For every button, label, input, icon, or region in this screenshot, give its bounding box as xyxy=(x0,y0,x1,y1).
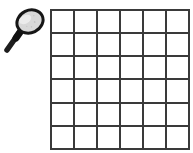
grid-cell xyxy=(144,34,165,55)
grid-cell xyxy=(75,104,96,125)
magnifier-ferrule xyxy=(16,32,21,39)
grid-cell xyxy=(52,11,73,32)
grid-cell xyxy=(52,57,73,78)
grid-cell xyxy=(167,57,188,78)
grid-cell xyxy=(98,34,119,55)
grid-cell xyxy=(52,34,73,55)
grid-cell xyxy=(121,127,142,148)
grid-cell xyxy=(75,57,96,78)
grid-cell xyxy=(121,80,142,101)
grid-cell xyxy=(121,11,142,32)
grid-cell xyxy=(167,80,188,101)
square-grid xyxy=(50,9,190,150)
grid-cell xyxy=(52,104,73,125)
grid-cell xyxy=(98,80,119,101)
grid-cell xyxy=(144,80,165,101)
grid-cell xyxy=(121,34,142,55)
grid-cell xyxy=(167,127,188,148)
grid-cell xyxy=(144,57,165,78)
grid-cell xyxy=(167,104,188,125)
magnifying-glass-icon xyxy=(1,2,51,54)
grid-cell xyxy=(52,127,73,148)
grid-cell xyxy=(98,11,119,32)
worksheet-graphic xyxy=(0,0,193,153)
grid-cell xyxy=(144,127,165,148)
grid-cell xyxy=(75,80,96,101)
grid-cell xyxy=(121,57,142,78)
grid-cell xyxy=(75,11,96,32)
grid-cell xyxy=(167,11,188,32)
grid-cell xyxy=(144,104,165,125)
grid-cell xyxy=(121,104,142,125)
grid-cell xyxy=(98,57,119,78)
grid-cell xyxy=(52,80,73,101)
grid-cell xyxy=(98,127,119,148)
grid-cell xyxy=(144,11,165,32)
grid-cell xyxy=(75,34,96,55)
grid-cell xyxy=(75,127,96,148)
grid-cell xyxy=(167,34,188,55)
grid-cell xyxy=(98,104,119,125)
